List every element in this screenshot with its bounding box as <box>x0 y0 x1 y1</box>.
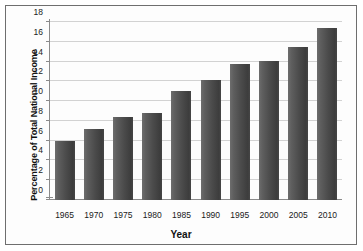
bar-slot <box>108 22 137 200</box>
y-axis-tick-label: 4 <box>38 145 43 155</box>
bar-slot <box>50 22 79 200</box>
y-axis-tick-label: 14 <box>34 47 43 57</box>
x-axis-tick-label: 2010 <box>318 210 337 220</box>
x-tick-slot: 1970 <box>79 204 108 222</box>
x-axis-title: Year <box>6 229 356 240</box>
bar-slot <box>225 22 254 200</box>
chart-figure: Percentage of Total National Income 0246… <box>0 0 363 251</box>
y-axis-tick <box>46 199 50 200</box>
bar-slot <box>284 22 313 200</box>
x-tick-slot: 2005 <box>284 204 313 222</box>
bar-slot <box>313 22 342 200</box>
y-axis-tick <box>46 140 50 141</box>
y-axis-tick-label: 12 <box>34 66 43 76</box>
y-axis-tick <box>46 100 50 101</box>
x-tick-slot: 1995 <box>225 204 254 222</box>
bar-slot <box>196 22 225 200</box>
y-axis-tick <box>46 41 50 42</box>
chart-frame: Percentage of Total National Income 0246… <box>5 5 357 245</box>
x-tick-slot: 1965 <box>50 204 79 222</box>
x-axis-tick-label: 1985 <box>172 210 191 220</box>
bar-1980 <box>142 113 162 200</box>
bar-1990 <box>201 80 221 200</box>
bar-slot <box>138 22 167 200</box>
y-axis-tick-label: 18 <box>34 7 43 17</box>
y-axis-tick-label: 10 <box>34 86 43 96</box>
x-axis-tick-label: 1965 <box>55 210 74 220</box>
bar-1995 <box>230 64 250 200</box>
y-axis-tick-label: 0 <box>38 185 43 195</box>
bar-1985 <box>171 91 191 200</box>
x-tick-slot: 2010 <box>313 204 342 222</box>
y-axis-tick-label: 16 <box>34 27 43 37</box>
bar-slot <box>79 22 108 200</box>
x-axis-tick-label: 1980 <box>143 210 162 220</box>
x-axis-tick-label: 1995 <box>230 210 249 220</box>
y-axis-tick <box>46 179 50 180</box>
x-tick-slot: 1990 <box>196 204 225 222</box>
bar-series <box>50 22 342 200</box>
x-axis-tick-labels: 1965197019751980198519901995200020052010 <box>50 204 342 222</box>
y-axis-tick <box>46 159 50 160</box>
x-tick-slot: 1985 <box>167 204 196 222</box>
x-tick-slot: 1975 <box>108 204 137 222</box>
y-axis-tick <box>46 21 50 22</box>
bar-2005 <box>288 47 308 200</box>
y-axis-tick-label: 2 <box>38 165 43 175</box>
x-tick-slot: 1980 <box>138 204 167 222</box>
y-axis-tick-label: 8 <box>38 106 43 116</box>
plot-area: 024681012141618 <box>50 22 342 200</box>
y-axis-tick-label: 6 <box>38 126 43 136</box>
x-tick-slot: 2000 <box>254 204 283 222</box>
bar-slot <box>254 22 283 200</box>
bar-1970 <box>84 129 104 200</box>
y-axis-tick <box>46 80 50 81</box>
x-axis-origin-tick <box>46 197 53 198</box>
x-axis-tick-label: 2000 <box>260 210 279 220</box>
bar-2010 <box>317 28 337 200</box>
y-axis-tick <box>46 120 50 121</box>
bar-2000 <box>259 61 279 200</box>
x-axis-tick-label: 1975 <box>114 210 133 220</box>
bar-1975 <box>113 117 133 200</box>
x-axis-tick-label: 1970 <box>84 210 103 220</box>
x-axis-tick-label: 2005 <box>289 210 308 220</box>
bar-1965 <box>55 141 75 200</box>
bar-slot <box>167 22 196 200</box>
y-axis-tick <box>46 61 50 62</box>
x-axis-tick-label: 1990 <box>201 210 220 220</box>
